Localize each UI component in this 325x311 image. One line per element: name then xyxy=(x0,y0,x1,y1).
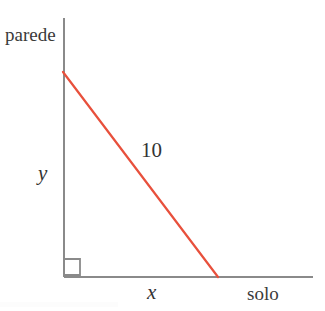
diagram-canvas xyxy=(0,0,325,311)
geometry-diagram: parede solo 10 y x xyxy=(0,0,325,311)
vertical-leg-label: y xyxy=(38,163,47,184)
ground-label: solo xyxy=(247,284,279,303)
hypotenuse-line xyxy=(63,72,218,277)
horizontal-leg-label: x xyxy=(147,282,156,303)
right-angle-marker-icon xyxy=(64,259,80,275)
hypotenuse-length-label: 10 xyxy=(141,140,162,161)
scan-artifact-band xyxy=(0,302,118,307)
wall-label: parede xyxy=(5,25,56,44)
